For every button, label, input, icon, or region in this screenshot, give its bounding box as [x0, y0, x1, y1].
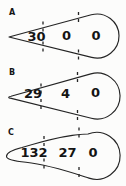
figure-canvas: A 30 0 0 B 29 4 0 C — [0, 0, 126, 186]
panel-a: A 30 0 0 — [9, 8, 119, 60]
panel-c-region1-count: 132 — [20, 145, 47, 160]
panel-c-region2-count: 27 — [58, 145, 76, 160]
panel-b: B 29 4 0 — [9, 68, 120, 121]
panel-b-label: B — [9, 68, 15, 77]
panel-a-region3-count: 0 — [91, 28, 100, 43]
panel-a-region2-count: 0 — [62, 28, 71, 43]
panel-a-region1-count: 30 — [27, 29, 45, 44]
panel-c-label: C — [8, 128, 14, 137]
panel-a-label: A — [9, 8, 16, 17]
panel-c-region3-count: 0 — [88, 145, 97, 160]
figure: A 30 0 0 B 29 4 0 C — [0, 0, 126, 186]
panel-b-region2-count: 4 — [61, 86, 70, 101]
panel-b-region3-count: 0 — [91, 85, 100, 100]
panel-c: C 132 27 0 — [7, 128, 121, 180]
panel-b-region1-count: 29 — [24, 86, 42, 101]
